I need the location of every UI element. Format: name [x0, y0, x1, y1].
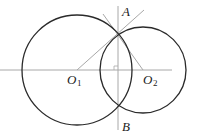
- label-o1-subscript: 1: [77, 78, 82, 88]
- label-b: B: [122, 119, 130, 134]
- label-o1: O: [67, 72, 77, 87]
- right-angle-mark: [114, 66, 118, 70]
- label-o2-subscript: 2: [153, 78, 158, 88]
- geometry-figure: A B O 1 O 2: [0, 0, 198, 137]
- label-o2: O: [143, 72, 153, 87]
- label-a: A: [121, 4, 130, 19]
- line-o1-a: [77, 10, 144, 70]
